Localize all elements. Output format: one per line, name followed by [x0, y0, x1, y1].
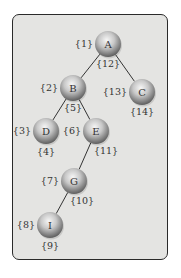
node-label: A — [103, 39, 112, 50]
node-label: B — [69, 83, 76, 94]
node-I: I — [37, 212, 64, 240]
post-order-label: {4} — [37, 146, 55, 157]
pre-order-label: {7} — [41, 175, 59, 186]
post-order-label: {9} — [41, 240, 59, 251]
node-label: D — [42, 126, 50, 137]
post-order-label: {12} — [96, 58, 120, 69]
pre-order-label: {2} — [40, 82, 58, 93]
node-A: A — [95, 31, 122, 59]
edge-G-I — [56, 192, 68, 213]
post-order-label: {11} — [94, 145, 118, 156]
node-G: G — [61, 168, 88, 196]
node-label: I — [48, 220, 52, 231]
node-D: D — [33, 118, 60, 146]
pre-order-label: {3} — [13, 125, 31, 136]
pre-order-label: {8} — [17, 219, 35, 230]
pre-order-label: {6} — [63, 125, 81, 136]
post-order-label: {14} — [130, 106, 154, 117]
edge-E-G — [79, 143, 91, 169]
node-C: C — [129, 79, 156, 107]
node-label: E — [92, 126, 99, 137]
tree-nodes: ABCDEGI — [33, 31, 156, 240]
node-E: E — [83, 118, 110, 146]
post-order-label: {5} — [64, 102, 82, 113]
traversal-labels: {1}{12}{2}{5}{13}{14}{3}{4}{6}{11}{7}{10… — [13, 38, 154, 251]
post-order-label: {10} — [70, 195, 94, 206]
node-label: C — [138, 87, 146, 98]
node-label: G — [70, 176, 78, 187]
node-B: B — [60, 75, 87, 103]
tree-diagram: ABCDEGI {1}{12}{2}{5}{13}{14}{3}{4}{6}{1… — [0, 0, 181, 278]
pre-order-label: {13} — [103, 86, 127, 97]
pre-order-label: {1} — [75, 38, 93, 49]
